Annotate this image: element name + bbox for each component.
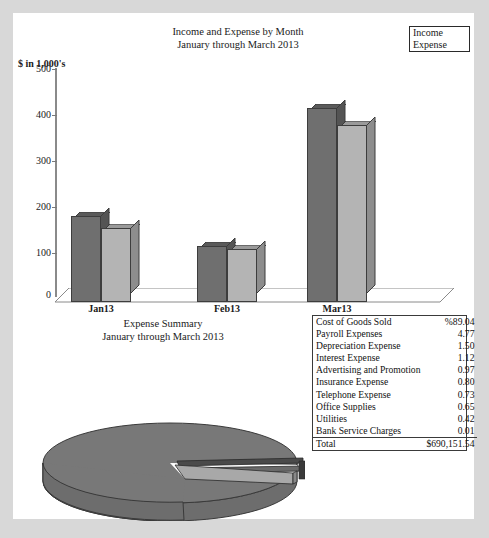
expense-value: 1.50 [423,340,477,352]
y-tick-label-0: 0 [21,289,51,300]
bar-front-face [101,228,131,302]
expense-label: Insurance Expense [313,376,423,388]
y-tick-label-300: 300 [21,155,51,166]
table-row: Utilities 0.42 [313,413,477,425]
bar-front-face [337,125,367,302]
expense-label: Bank Service Charges [313,425,423,438]
expense-value: 0.01 [423,425,477,438]
report-sheet: Income and Expense by Month January thro… [13,13,474,519]
expense-label: Payroll Expenses [313,328,423,340]
expense-value: 0.42 [423,413,477,425]
y-tick-mark-400 [52,115,57,116]
bar-side-face [130,220,139,294]
bar-front-face [307,108,337,302]
bar-income-mar13 [307,13,337,303]
y-tick-mark-100 [52,253,57,254]
bar-income-jan13 [71,13,101,303]
total-value: $690,151.54 [423,437,477,450]
y-tick-label-500: 500 [21,63,51,74]
pie-graphic [35,421,305,521]
bar-front-face [197,246,227,302]
table-row: Payroll Expenses 4.77 [313,328,477,340]
y-tick-mark-200 [52,207,57,208]
bar-expense-jan13 [101,13,131,303]
y-tick-label-100: 100 [21,247,51,258]
bar-income-feb13 [197,13,227,303]
y-axis-line [55,68,57,297]
expense-value: 0.80 [423,376,477,388]
pie-chart-title: Expense Summary January through March 20… [23,318,303,343]
table-row: Advertising and Promotion 0.97 [313,364,477,376]
expense-value: 4.77 [423,328,477,340]
expense-value: 0.65 [423,401,477,413]
bar-side-face [366,117,375,294]
expense-label: Depreciation Expense [313,340,423,352]
legend-item-expense: Expense [413,39,467,51]
y-tick-mark-300 [52,161,57,162]
bar-side-face [256,241,265,294]
bar-front-face [71,216,101,302]
bar-chart: Income and Expense by Month January thro… [13,13,474,313]
table-row: Insurance Expense 0.80 [313,376,477,388]
expense-label: Utilities [313,413,423,425]
expense-label: Interest Expense [313,352,423,364]
y-tick-mark-500 [52,69,57,70]
bar-chart-legend: Income Expense [409,26,470,52]
table-row: Office Supplies 0.65 [313,401,477,413]
table-row: Telephone Expense 0.73 [313,389,477,401]
legend-item-income: Income [413,27,467,39]
y-tick-label-400: 400 [21,109,51,120]
table-row: Bank Service Charges 0.01 [313,425,477,438]
pie-chart: Expense Summary January through March 20… [13,313,313,519]
bar-front-face [227,249,257,302]
expense-label: Office Supplies [313,401,423,413]
bar-expense-mar13 [337,13,367,303]
expense-value: 0.97 [423,364,477,376]
total-label: Total [313,437,423,450]
expense-label: Advertising and Promotion [313,364,423,376]
expense-value: 1.12 [423,352,477,364]
expense-value: 0.73 [423,389,477,401]
page-background: Income and Expense by Month January thro… [0,0,489,538]
table-row-total: Total $690,151.54 [313,437,477,450]
expense-summary-table: Cost of Goods Sold %89.04 Payroll Expens… [312,315,467,451]
table-row: Cost of Goods Sold %89.04 [313,316,477,328]
table-row: Depreciation Expense 1.50 [313,340,477,352]
expense-value: %89.04 [423,316,477,328]
expense-label: Cost of Goods Sold [313,316,423,328]
bar-expense-feb13 [227,13,257,303]
table-row: Interest Expense 1.12 [313,352,477,364]
expense-label: Telephone Expense [313,389,423,401]
y-tick-label-200: 200 [21,201,51,212]
